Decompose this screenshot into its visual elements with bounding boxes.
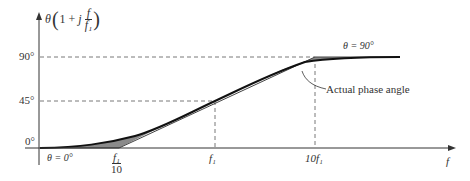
tick-45: 45° — [19, 94, 34, 106]
y-axis-label: θ ( 1 + j f f₁ ) — [45, 8, 100, 31]
asymptote-line — [40, 57, 400, 148]
j-symbol: j — [78, 12, 81, 27]
annotation-pointer — [302, 71, 326, 89]
annotation-theta-0: θ = 0° — [47, 152, 73, 163]
tick-0: 0° — [25, 135, 35, 147]
shade-high — [260, 57, 400, 80]
tick-f1-over-10: f₁ 10 — [111, 152, 122, 175]
actual-phase-curve — [40, 57, 400, 148]
annotation-theta-90: θ = 90° — [343, 40, 374, 51]
open-paren: ( — [52, 8, 59, 31]
x-axis-label: f — [446, 155, 449, 167]
one-plus: 1 + — [60, 12, 79, 27]
close-paren: ) — [93, 8, 100, 31]
theta-symbol: θ — [45, 12, 51, 27]
tick-f1: f₁ — [209, 152, 216, 164]
x-axis-arrow — [448, 145, 456, 151]
annotation-actual-phase: Actual phase angle — [326, 83, 410, 95]
shade-low — [40, 122, 170, 148]
tick-10f1: 10f₁ — [305, 152, 323, 164]
tick-90: 90° — [19, 50, 34, 62]
f-over-f1: f f₁ — [85, 8, 93, 31]
y-axis-arrow — [36, 12, 42, 20]
